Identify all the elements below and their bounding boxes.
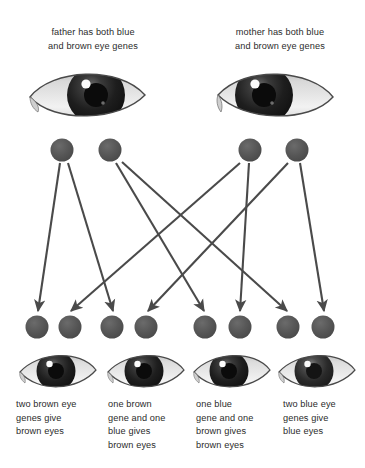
- mother-gene-2: [286, 139, 309, 162]
- child-gene-circles: [26, 316, 335, 339]
- child-eye-3: [192, 346, 272, 396]
- child-1-gene-b: [59, 316, 82, 339]
- child-2-caption-line-3: blue gives: [108, 425, 196, 439]
- child-4-caption-line-2: genes give: [283, 412, 365, 426]
- child-caption-2: one brown gene and one blue gives brown …: [108, 398, 196, 452]
- father-eye: [28, 62, 150, 126]
- parent-gene-circles: [51, 139, 309, 162]
- arrow-m1-c3b: [240, 163, 249, 311]
- child-2-caption-line-2: gene and one: [108, 412, 196, 426]
- arrow-m2-c2b: [148, 163, 288, 311]
- child-caption-4: two blue eye genes give blue eyes: [283, 398, 365, 439]
- inheritance-arrows: [38, 162, 324, 311]
- child-3-caption-line-4: brown eyes: [196, 439, 284, 453]
- child-2-gene-a: [101, 316, 124, 339]
- child-caption-1: two brown eye genes give brown eyes: [16, 398, 104, 439]
- child-4-gene-a: [277, 316, 300, 339]
- eye-color-inheritance-diagram: father has both blue and brown eye genes…: [0, 0, 365, 468]
- child-2-caption-line-4: brown eyes: [108, 439, 196, 453]
- child-eye-1: [18, 346, 98, 396]
- child-1-gene-a: [26, 316, 49, 339]
- arrow-f1-c1a: [38, 163, 60, 311]
- child-4-caption-line-3: blue eyes: [283, 425, 365, 439]
- child-3-caption-line-1: one blue: [196, 398, 284, 412]
- child-2-caption-line-1: one brown: [108, 398, 196, 412]
- child-1-caption-line-3: brown eyes: [16, 425, 104, 439]
- child-caption-3: one blue gene and one brown gives brown …: [196, 398, 284, 452]
- arrow-f2-c4a: [122, 162, 287, 311]
- father-gene-2: [99, 139, 122, 162]
- child-3-gene-a: [194, 316, 217, 339]
- child-4-gene-b: [312, 316, 335, 339]
- arrow-m1-c1b: [71, 163, 240, 311]
- child-1-caption-line-2: genes give: [16, 412, 104, 426]
- arrow-m2-c4b: [300, 163, 324, 311]
- mother-eye: [216, 62, 338, 126]
- father-gene-1: [51, 139, 74, 162]
- child-2-gene-b: [135, 316, 158, 339]
- child-3-gene-b: [229, 316, 252, 339]
- child-1-caption-line-1: two brown eye: [16, 398, 104, 412]
- child-3-caption-line-2: gene and one: [196, 412, 284, 426]
- child-4-caption-line-1: two blue eye: [283, 398, 365, 412]
- child-eye-2: [106, 346, 186, 396]
- arrow-f2-c3a: [116, 163, 204, 311]
- child-eye-4: [277, 346, 357, 396]
- mother-gene-1: [239, 139, 262, 162]
- child-3-caption-line-3: brown gives: [196, 425, 284, 439]
- arrow-f1-c2a: [68, 163, 113, 311]
